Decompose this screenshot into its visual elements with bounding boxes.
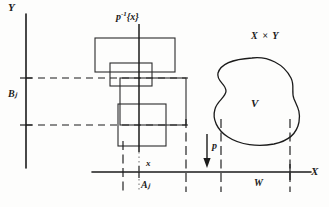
- rect-upper-large: [95, 38, 175, 72]
- dashed-horizontal-group: [26, 78, 188, 125]
- label-point-x: x: [146, 159, 151, 168]
- label-fiber-preimage: p-1{x}: [116, 11, 139, 22]
- projection-arrow-head: [203, 158, 210, 168]
- projection-arrow-group: [203, 134, 210, 168]
- label-projection-map: p: [212, 141, 217, 151]
- label-w-set: W: [254, 178, 263, 188]
- rect-middle-small: [110, 63, 152, 86]
- label-a-set: Aⱼ: [141, 180, 150, 190]
- rect-wide-band: [120, 78, 186, 125]
- label-x-axis: X: [311, 166, 318, 177]
- label-b-set: Bⱼ: [8, 89, 17, 99]
- label-y-axis: Y: [8, 2, 15, 13]
- diagram-svg: [0, 0, 329, 207]
- figure-canvas: Y X Bⱼ Aⱼ x W p V X × Y p-1{x}: [0, 0, 329, 207]
- axis-ticks-group: [20, 78, 290, 180]
- label-open-set-v: V: [251, 98, 258, 109]
- rectangles-group: [95, 38, 186, 146]
- fiber-suffix-text: {x}: [127, 11, 139, 22]
- label-product-space: X × Y: [251, 31, 279, 41]
